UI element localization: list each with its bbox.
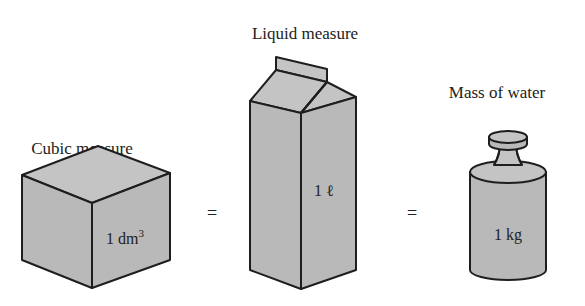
weight-mass-label: 1 kg <box>494 226 522 244</box>
weight-caption: Mass of water <box>449 83 546 102</box>
equivalence-diagram: Cubic measure 1 dm3 = Liquid measure 1 ℓ… <box>0 0 585 306</box>
carton-caption: Liquid measure <box>252 24 358 43</box>
equals-sign-2: = <box>407 203 417 223</box>
carton-figure: Liquid measure 1 ℓ <box>250 24 358 289</box>
equals-sign-1: = <box>207 203 217 223</box>
carton-left-face <box>250 101 301 289</box>
weight-figure: Mass of water 1 kg <box>449 83 546 280</box>
cube-figure: Cubic measure 1 dm3 <box>22 139 170 288</box>
carton-volume-label: 1 ℓ <box>314 182 334 199</box>
weight-knob-top <box>489 131 527 143</box>
